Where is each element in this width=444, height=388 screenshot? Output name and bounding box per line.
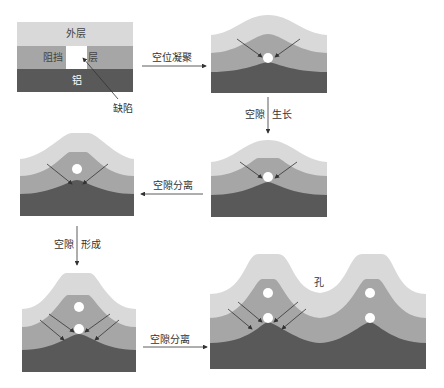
void-formation-diagram: 外层 阻挡 层 铝 缺陷 空位凝聚 空隙 生长 空隙分离 [0,0,444,388]
panel-void-separated [20,133,134,216]
step-label: 空位凝聚 [152,51,192,63]
panel-vacancy-condensation [211,15,327,93]
panel-initial: 外层 阻挡 层 铝 缺陷 [17,22,133,114]
panel-pore-formation: 孔 [210,254,426,369]
aluminum-label: 铝 [72,75,82,86]
step-label: 空隙 [54,238,74,250]
step-label: 形成 [81,239,101,250]
barrier-layer-label-left: 阻挡 [43,51,63,63]
hole-label: 孔 [314,277,324,288]
step-label: 空隙分离 [153,179,193,191]
step-arrow-vacancy-condensation: 空位凝聚 [142,51,206,66]
defect-label: 缺陷 [113,102,133,114]
panel-void-growth [211,140,327,217]
step-label: 空隙 [245,108,265,120]
outer-layer-label: 外层 [66,28,86,39]
barrier-layer-label-right: 层 [88,52,98,63]
panel-void-formation [22,273,136,372]
step-arrow-void-formation: 空隙 形成 [54,226,101,265]
step-label: 生长 [272,108,292,120]
step-arrow-void-separation-2: 空隙分离 [143,333,207,347]
step-arrow-void-separation-1: 空隙分离 [141,179,203,194]
step-arrow-void-growth: 空隙 生长 [245,97,292,133]
step-label: 空隙分离 [150,333,190,345]
